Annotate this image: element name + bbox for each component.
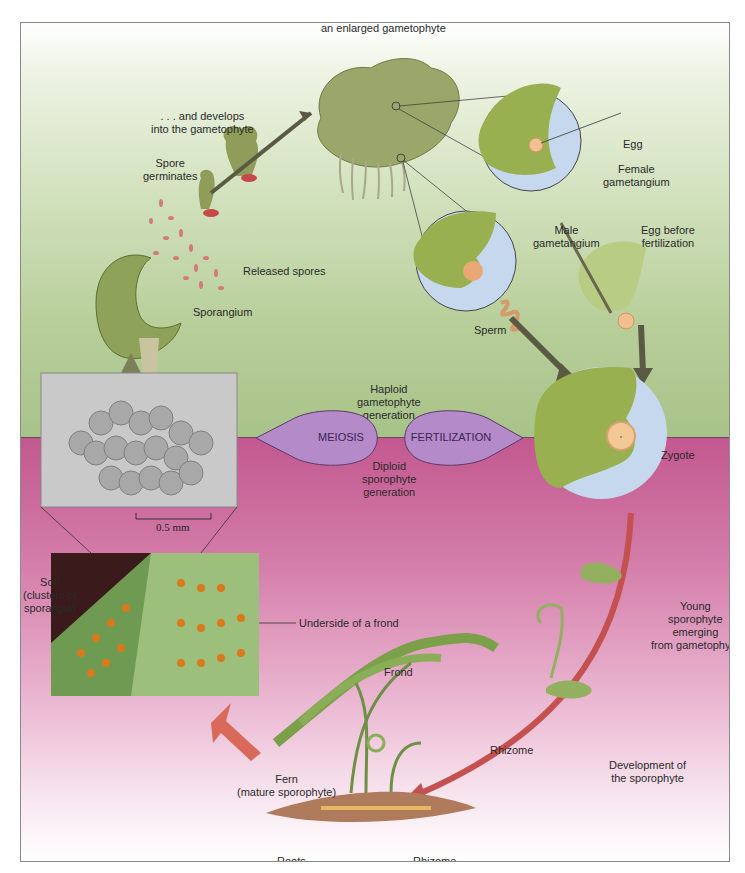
spores-micrograph	[41, 373, 237, 553]
haploid-generation-label: Haploid gametophyte generation	[357, 383, 421, 422]
diploid-generation-label: Diploid sporophyte generation	[362, 460, 416, 499]
development-sporophyte-label: Development of the sporophyte	[609, 759, 686, 785]
roots-label: Roots	[277, 855, 306, 862]
rhizome-label: Rhizome	[413, 855, 456, 862]
sporangium-label: Sporangium	[193, 306, 252, 319]
egg-before-fertilization-label: Egg before fertilization	[641, 224, 695, 250]
spore-germinates-label: Spore germinates	[143, 157, 197, 183]
male-gametangium-label: Male gametangium	[533, 224, 600, 250]
underside-frond-label: Underside of a frond	[299, 617, 399, 630]
young-sporophyte-label: Young sporophyte emerging from gametophy…	[651, 600, 730, 652]
sporangium-illustration	[96, 255, 181, 383]
egg-label: Egg	[623, 138, 643, 151]
fern-label: Fern (mature sporophyte)	[237, 773, 336, 799]
released-spores-label: Released spores	[243, 265, 326, 278]
frond-to-sori-arrow	[211, 703, 261, 761]
rhizome-development-label: Rhizome	[490, 744, 533, 757]
young-sporophyte-illustration	[581, 563, 622, 584]
sperm-illustration	[501, 301, 576, 381]
gametophyte-illustration	[318, 59, 459, 200]
zygote-label: Zygote	[661, 449, 695, 462]
meiosis-label: MEIOSIS	[306, 431, 376, 443]
developing-sporophyte-illustration	[546, 681, 592, 699]
life-cycle-diagram: Underside of an enlarged gametophyte . .…	[20, 22, 730, 862]
sori-label: Sori (clusters of sporangia)	[23, 576, 77, 615]
sperm-label: Sperm	[474, 324, 506, 337]
frond-label: Frond	[384, 666, 413, 679]
zygote-zoom	[534, 367, 667, 499]
scale-bar-label: 0.5 mm	[156, 521, 190, 533]
underside-gametophyte-label: Underside of an enlarged gametophyte	[321, 22, 446, 35]
frond-photo	[51, 553, 259, 696]
male-gametangium-zoom	[403, 160, 516, 311]
fertilization-label: FERTILIZATION	[406, 431, 496, 443]
develops-label: . . . and develops into the gametophyte	[151, 110, 254, 136]
female-gametangium-label: Female gametangium	[603, 163, 670, 189]
